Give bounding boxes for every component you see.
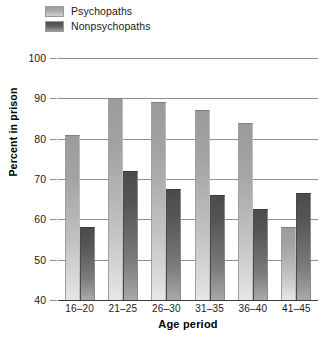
x-axis-tick-label: 26–30	[145, 303, 188, 314]
legend-label-nonpsychopaths: Nonpsychopaths	[71, 21, 151, 32]
x-axis-tick-label: 31–35	[188, 303, 231, 314]
bar-nonpsychopaths	[296, 193, 311, 300]
y-axis-title: Percent in prison	[7, 67, 19, 197]
bar-psychopaths	[65, 135, 80, 300]
bar-group	[101, 58, 144, 300]
legend-swatch-icon-psychopaths	[45, 6, 64, 17]
x-axis-tick-label: 21–25	[101, 303, 144, 314]
x-axis-tick-labels: 16–2021–2526–3031–3536–4041–45	[58, 303, 318, 314]
legend-swatch-icon-nonpsychopaths	[45, 21, 64, 32]
bar-psychopaths	[195, 110, 210, 300]
y-axis-tick-label: 80	[20, 133, 46, 145]
bar-group	[231, 58, 274, 300]
y-axis-tick	[50, 300, 57, 301]
bar-nonpsychopaths	[80, 227, 95, 300]
y-axis-tick-label: 50	[20, 254, 46, 266]
bar-nonpsychopaths	[210, 195, 225, 300]
bar-group	[58, 58, 101, 300]
bar-group	[188, 58, 231, 300]
bar-psychopaths	[151, 102, 166, 300]
x-axis-tick-label: 16–20	[58, 303, 101, 314]
bar-psychopaths	[108, 98, 123, 300]
bar-groups	[58, 58, 318, 300]
x-axis-tick-label: 36–40	[231, 303, 274, 314]
y-axis-tick-label: 100	[20, 52, 46, 64]
x-axis-tick-label: 41–45	[275, 303, 318, 314]
x-axis-title: Age period	[58, 318, 318, 330]
y-axis-tick-label: 40	[20, 294, 46, 306]
bar-psychopaths	[238, 123, 253, 300]
legend-label-psychopaths: Psychopaths	[71, 6, 132, 17]
y-axis-tick	[50, 260, 57, 261]
y-axis-tick-label: 60	[20, 213, 46, 225]
bar-nonpsychopaths	[253, 209, 268, 300]
y-axis-tick	[50, 98, 57, 99]
chart-legend: Psychopaths Nonpsychopaths	[45, 5, 151, 33]
x-axis-line	[58, 300, 318, 301]
bar-nonpsychopaths	[166, 189, 181, 300]
y-axis-tick	[50, 58, 57, 59]
bar-group	[145, 58, 188, 300]
legend-item-psychopaths: Psychopaths	[45, 5, 151, 18]
bar-psychopaths	[281, 227, 296, 300]
y-axis-tick	[50, 219, 57, 220]
bar-chart-figure: Psychopaths Nonpsychopaths 4050607080901…	[0, 0, 328, 337]
y-axis-tick-label: 70	[20, 173, 46, 185]
y-axis-tick-label: 90	[20, 92, 46, 104]
bar-nonpsychopaths	[123, 171, 138, 300]
bar-group	[275, 58, 318, 300]
legend-item-nonpsychopaths: Nonpsychopaths	[45, 20, 151, 33]
y-axis-tick	[50, 139, 57, 140]
y-axis-tick	[50, 179, 57, 180]
plot-area	[58, 58, 318, 300]
